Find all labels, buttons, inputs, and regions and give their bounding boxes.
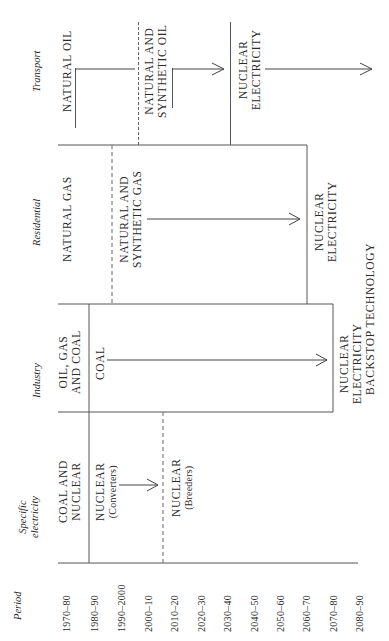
stage-line: NUCLEAR <box>313 181 326 262</box>
specific-stage-coal-and-nuclear: COAL AND NUCLEAR <box>57 460 82 523</box>
specific-stage-nuclear-breeders: NUCLEAR (Breeders) <box>170 458 194 517</box>
industry-stage-nuclear-electricity: NUCLEAR ELECTRICITY <box>338 323 363 404</box>
transport-stage-natural-synthetic-oil: NATURAL AND SYNTHETIC OIL <box>143 24 168 118</box>
stage-line: NATURAL AND <box>118 170 131 268</box>
stage-line: AND COAL <box>70 330 83 394</box>
stage-line: NATURAL AND <box>143 24 156 118</box>
stage-line: (Converters) <box>107 462 118 521</box>
stage-line: NUCLEAR <box>94 462 107 521</box>
stage-line: ELECTRICITY <box>250 29 263 110</box>
industry-stage-oil-gas-coal: OIL, GAS AND COAL <box>57 330 82 394</box>
transport-stage-natural-oil: NATURAL OIL <box>61 30 74 112</box>
connector-lines <box>0 0 389 641</box>
energy-transition-diagram: Period 1970–80 1980–90 1990–2000 2000–10… <box>0 0 389 641</box>
transport-stage-nuclear-electricity: NUCLEAR ELECTRICITY <box>237 29 262 110</box>
industry-stage-coal: COAL <box>94 346 107 380</box>
stage-line: ELECTRICITY <box>351 323 364 404</box>
stage-line: SYNTHETIC GAS <box>131 170 144 268</box>
stage-line: NUCLEAR <box>170 458 183 517</box>
stage-line: ELECTRICITY <box>326 181 339 262</box>
residential-stage-natural-synthetic-gas: NATURAL AND SYNTHETIC GAS <box>118 170 143 268</box>
stage-line: NUCLEAR <box>237 29 250 110</box>
residential-stage-nuclear-electricity: NUCLEAR ELECTRICITY <box>313 181 338 262</box>
stage-line: OIL, GAS <box>57 330 70 394</box>
residential-stage-natural-gas: NATURAL GAS <box>61 176 74 262</box>
stage-line: NUCLEAR <box>70 460 83 523</box>
stage-line: NUCLEAR <box>338 323 351 404</box>
stage-line: COAL AND <box>57 460 70 523</box>
specific-stage-nuclear-converters: NUCLEAR (Converters) <box>94 462 118 521</box>
backstop-technology-label: BACKSTOP TECHNOLOGY <box>364 243 377 395</box>
stage-line: (Breeders) <box>183 458 194 517</box>
stage-line: SYNTHETIC OIL <box>156 24 169 118</box>
